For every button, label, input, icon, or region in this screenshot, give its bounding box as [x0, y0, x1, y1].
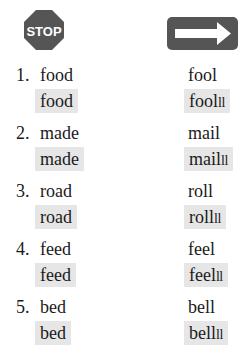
word-pair-row-3: 3. road roll road rollll [0, 180, 243, 230]
arrow-right-sign-icon [167, 17, 238, 50]
continuous-word: fool [188, 64, 217, 86]
stop-word: bed [40, 296, 66, 318]
stop-word: made [40, 122, 79, 144]
word-pair-row-2: 2. made mail made mailll [0, 122, 243, 172]
item-number: 1. [16, 64, 30, 86]
continuous-word-highlight: mailll [184, 147, 233, 171]
stop-word-highlight: road [35, 205, 77, 229]
item-number: 3. [16, 180, 30, 202]
continuous-word: feel [188, 238, 215, 260]
stop-word-highlight: food [35, 89, 78, 113]
word-pair-row-1: 1. food fool food foolll [0, 64, 243, 114]
word-pair-row-4: 4. feed feel feed feelll [0, 238, 243, 288]
continuous-word-highlight: bellll [184, 321, 228, 345]
stop-sign-icon: STOP [24, 10, 64, 50]
continuous-word-highlight: feelll [184, 263, 228, 287]
continuous-word-highlight: rollll [184, 205, 226, 229]
stop-word: road [40, 180, 72, 202]
svg-text:STOP: STOP [26, 24, 61, 39]
continuous-word: roll [188, 180, 213, 202]
stop-word-highlight: bed [35, 321, 71, 345]
continuous-word: bell [188, 296, 215, 318]
continuous-word-highlight: foolll [184, 89, 230, 113]
item-number: 5. [16, 296, 30, 318]
stop-word-highlight: made [35, 147, 84, 171]
stop-word-highlight: feed [35, 263, 76, 287]
continuous-word: mail [188, 122, 220, 144]
word-pair-row-5: 5. bed bell bed bellll [0, 296, 243, 346]
stop-word: feed [40, 238, 71, 260]
stop-word: food [40, 64, 73, 86]
item-number: 2. [16, 122, 30, 144]
item-number: 4. [16, 238, 30, 260]
